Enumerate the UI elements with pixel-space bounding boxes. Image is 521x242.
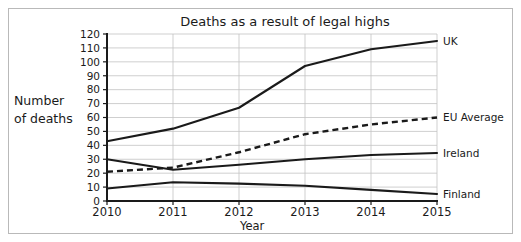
y-axis-title-line1: Number bbox=[14, 93, 65, 108]
x-tick-label: 2014 bbox=[356, 205, 385, 219]
gridlines bbox=[107, 34, 437, 201]
series-label-ireland: Ireland bbox=[443, 147, 479, 159]
chart-figure: Deaths as a result of legal highs Number… bbox=[0, 0, 521, 242]
x-tick-label: 2013 bbox=[290, 205, 319, 219]
x-tick-label: 2012 bbox=[224, 205, 253, 219]
y-axis-title-line2: of deaths bbox=[14, 111, 73, 126]
x-axis-tick-labels: 201020112012201320142015 bbox=[92, 205, 451, 219]
series-line-ireland bbox=[107, 153, 437, 170]
line-chart: Deaths as a result of legal highs Number… bbox=[0, 0, 521, 242]
y-tick-label: 50 bbox=[87, 125, 100, 137]
series-labels: UKEU AverageIrelandFinland bbox=[443, 35, 504, 200]
series-label-finland: Finland bbox=[443, 188, 481, 200]
y-tick-label: 20 bbox=[87, 167, 100, 179]
y-tick-label: 10 bbox=[87, 181, 100, 193]
y-axis-tick-labels: 0102030405060708090100110120 bbox=[80, 28, 100, 207]
y-tick-label: 120 bbox=[80, 28, 100, 40]
y-tick-label: 110 bbox=[80, 42, 100, 54]
x-axis-title: Year bbox=[239, 219, 265, 233]
y-tick-label: 90 bbox=[87, 70, 100, 82]
series-label-uk: UK bbox=[443, 35, 459, 47]
series-label-eu-average: EU Average bbox=[443, 111, 504, 123]
y-tick-label: 70 bbox=[87, 97, 100, 109]
series-line-eu-average bbox=[107, 118, 437, 172]
y-tick-label: 60 bbox=[87, 111, 100, 123]
chart-title: Deaths as a result of legal highs bbox=[180, 14, 390, 29]
x-tick-label: 2011 bbox=[158, 205, 187, 219]
x-tick-label: 2010 bbox=[92, 205, 121, 219]
y-tick-label: 40 bbox=[87, 139, 100, 151]
series-line-finland bbox=[107, 182, 437, 194]
series-line-uk bbox=[107, 41, 437, 141]
x-tick-label: 2015 bbox=[422, 205, 451, 219]
y-tick-label: 80 bbox=[87, 83, 100, 95]
y-tick-label: 30 bbox=[87, 153, 100, 165]
y-tick-label: 100 bbox=[80, 56, 100, 68]
